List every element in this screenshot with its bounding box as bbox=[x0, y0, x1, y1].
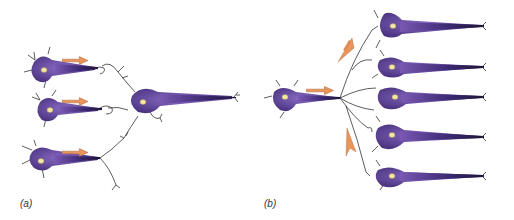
postsynaptic-neuron-5 bbox=[376, 160, 486, 190]
panel-b bbox=[264, 10, 486, 190]
presynaptic-neuron-2 bbox=[32, 90, 102, 127]
postsynaptic-neuron-1 bbox=[374, 10, 486, 48]
arrow-icon bbox=[307, 86, 334, 94]
panel-a-label: (a) bbox=[20, 198, 32, 209]
panel-a bbox=[22, 47, 240, 190]
arrow-up bbox=[338, 38, 354, 62]
postsynaptic-neuron-2 bbox=[372, 50, 486, 78]
presynaptic-neuron-3 bbox=[22, 140, 100, 178]
postsynaptic-neuron-4 bbox=[372, 116, 486, 152]
postsynaptic-neuron bbox=[131, 89, 240, 113]
postsynaptic-neuron-3 bbox=[378, 87, 486, 109]
convergent-branches bbox=[95, 64, 162, 190]
panel-b-label: (b) bbox=[264, 198, 276, 209]
presynaptic-neuron bbox=[264, 80, 340, 118]
presynaptic-neuron-1 bbox=[24, 47, 98, 88]
neuron-diagram bbox=[0, 0, 514, 220]
